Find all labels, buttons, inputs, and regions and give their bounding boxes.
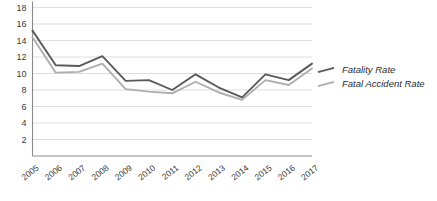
y-axis-tick-label: 16 xyxy=(16,19,26,29)
chart-canvas: 18161412108642 2005200620072008200920102… xyxy=(0,0,437,201)
y-axis-tick-label: 10 xyxy=(16,69,26,79)
y-axis-tick-label: 12 xyxy=(16,52,26,62)
x-axis-tick-label: 2014 xyxy=(229,163,250,183)
x-axis-tick-label: 2008 xyxy=(90,163,111,183)
y-axis-tick-label: 18 xyxy=(16,3,26,13)
x-axis-tick-label: 2010 xyxy=(136,163,157,183)
gridlines xyxy=(33,8,313,140)
y-axis-tick-label: 14 xyxy=(16,36,26,46)
x-axis-tick-label: 2011 xyxy=(160,163,181,182)
legend-label: Fatal Accident Rate xyxy=(342,78,425,89)
legend-swatch xyxy=(318,82,334,86)
x-axis-tick-label: 2017 xyxy=(299,163,320,183)
legend-label: Fatality Rate xyxy=(342,64,395,75)
y-axis-tick-label: 4 xyxy=(21,118,26,128)
x-axis-tick-label: 2005 xyxy=(20,163,41,183)
x-axis-tick-label: 2013 xyxy=(206,163,227,183)
y-axis-tick-label: 8 xyxy=(21,85,26,95)
y-axis-tick-label: 6 xyxy=(21,102,26,112)
x-axis-tick-label: 2015 xyxy=(253,163,274,183)
chart-legend: Fatality RateFatal Accident Rate xyxy=(318,64,425,89)
x-axis-tick-labels: 2005200620072008200920102011201220132014… xyxy=(20,163,321,183)
x-axis-tick-label: 2009 xyxy=(113,163,134,183)
line-chart: 18161412108642 2005200620072008200920102… xyxy=(0,0,437,201)
x-axis-tick-label: 2016 xyxy=(276,163,297,183)
y-axis-tick-labels: 18161412108642 xyxy=(16,3,26,145)
x-axis-tick-label: 2007 xyxy=(66,163,87,183)
axes xyxy=(33,2,313,157)
data-series-group xyxy=(33,31,313,100)
x-axis-tick-label: 2006 xyxy=(43,163,64,183)
legend-swatch xyxy=(318,68,334,72)
x-axis-tick-label: 2012 xyxy=(183,163,204,183)
y-axis-tick-label: 2 xyxy=(21,135,26,145)
